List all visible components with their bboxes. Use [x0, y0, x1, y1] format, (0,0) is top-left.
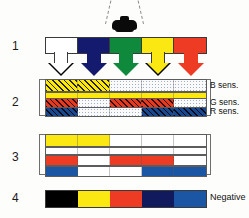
negative-segment-blue [174, 191, 206, 207]
arrow-white [45, 52, 77, 76]
lamp-base [115, 28, 134, 32]
magenta-dye-layer [45, 155, 207, 166]
lamp-chain-right [138, 1, 144, 25]
negative-band [45, 190, 207, 208]
blue-sensitive-layer [45, 79, 207, 92]
lamp-chain-left [105, 1, 111, 25]
light-arrows [45, 52, 207, 76]
row-number-3: 3 [12, 150, 19, 164]
label-b-sens: B sens. [210, 80, 238, 90]
arrow-green [110, 52, 142, 76]
label-negative: Negative [210, 192, 246, 202]
negative-segment-red [110, 191, 142, 207]
yellow-dye-layer [45, 134, 207, 147]
label-r-sens: R sens. [210, 106, 239, 116]
lamp-icon [98, 0, 150, 34]
arrow-blue [77, 52, 109, 76]
subject-segment-red [174, 38, 206, 53]
negative-segment-yellow [78, 191, 110, 207]
row-number-2: 2 [12, 95, 19, 109]
clear-layer [45, 147, 207, 155]
negative-segment-dark-blue [142, 191, 174, 207]
film-exposure-diagram: 1 2 3 4 [0, 0, 249, 218]
arrow-yellow [142, 52, 174, 76]
subject-segment-green [110, 38, 142, 53]
row-number-1: 1 [12, 39, 19, 53]
cyan-dye-layer [45, 166, 207, 177]
subject-segment-blue [78, 38, 110, 53]
arrow-red [175, 52, 207, 76]
red-sensitive-layer [45, 107, 207, 117]
negative-segment-black [46, 191, 78, 207]
subject-segment-yellow [142, 38, 174, 53]
row-number-4: 4 [12, 191, 19, 205]
subject-segment-white [46, 38, 78, 53]
